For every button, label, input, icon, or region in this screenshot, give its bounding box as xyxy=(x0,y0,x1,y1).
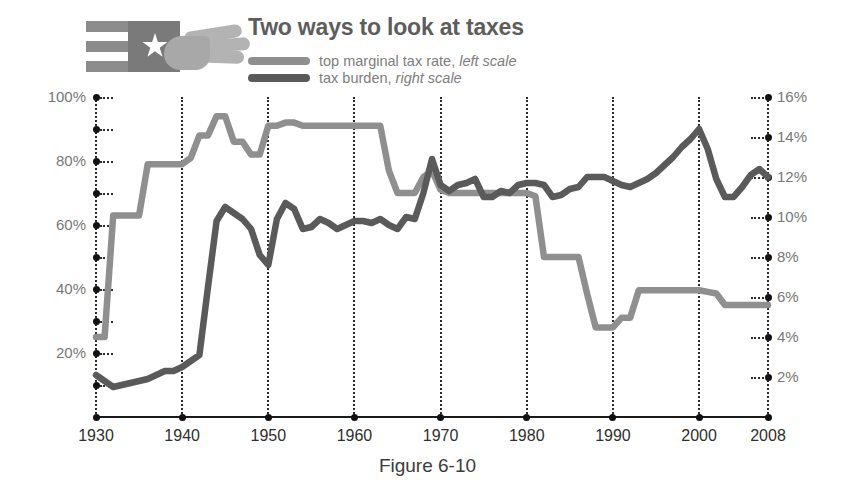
figure-caption: Figure 6-10 xyxy=(0,455,855,477)
series-line-tax-burden xyxy=(96,129,768,387)
plot-area: 193019401950196019701980199020002008 100… xyxy=(0,0,855,492)
series-layer xyxy=(0,0,855,492)
figure-root: Two ways to look at taxes top marginal t… xyxy=(0,0,855,492)
series-line-top-marginal-tax-rate xyxy=(96,116,768,337)
